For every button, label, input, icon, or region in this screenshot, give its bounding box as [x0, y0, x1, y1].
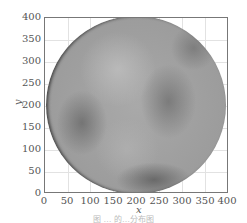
y-tick: 400 — [22, 12, 41, 22]
x-tick: 100 — [80, 196, 99, 206]
y-tick: 300 — [22, 56, 41, 66]
x-tick: 300 — [172, 196, 191, 206]
x-tick: 150 — [103, 196, 122, 206]
x-tick: 50 — [61, 196, 74, 206]
x-tick: 350 — [195, 196, 214, 206]
y-tick: 50 — [28, 166, 41, 176]
y-tick: 250 — [22, 78, 41, 88]
x-tick: 400 — [217, 196, 236, 206]
x-tick: 250 — [149, 196, 168, 206]
y-tick: 200 — [22, 100, 41, 110]
x-tick: 0 — [41, 196, 47, 206]
y-axis-label: y — [12, 100, 23, 106]
y-tick: 150 — [22, 122, 41, 132]
y-tick: 350 — [22, 34, 41, 44]
figure-caption: 图 … 的…分布图 — [0, 213, 247, 223]
intensity-disk — [46, 17, 226, 193]
y-tick: 100 — [22, 144, 41, 154]
plot-area — [44, 17, 228, 193]
